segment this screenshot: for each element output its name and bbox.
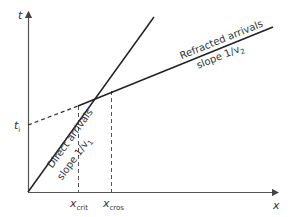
travel-time-diagram: t x ti Direct arrivals slope 1/v1 Refrac… [0, 0, 294, 217]
x-crit-label: xcrit [69, 197, 88, 212]
refracted-arrivals-line [78, 27, 273, 106]
x-cros-label: xcros [102, 197, 124, 212]
t-axis-label: t [18, 9, 23, 22]
x-axis-label: x [272, 199, 280, 212]
refracted-extension-dashed [28, 106, 78, 125]
intercept-label: ti [14, 119, 20, 134]
